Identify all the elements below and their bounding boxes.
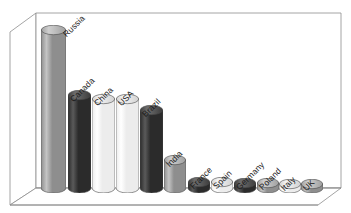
bar-cylinder (140, 105, 163, 193)
bar-cylinder (68, 90, 91, 193)
bars-layer: RussiaCanadaChinaUSABrazilIndiaFranceSpa… (0, 0, 351, 213)
chart-canvas: RussiaCanadaChinaUSABrazilIndiaFranceSpa… (0, 0, 351, 213)
bar-cylinder (116, 94, 139, 193)
bar-cylinder (41, 25, 66, 193)
bar-cylinder (92, 94, 115, 193)
